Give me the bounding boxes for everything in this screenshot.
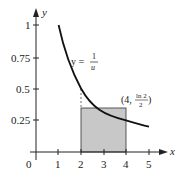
y-tick-label: 0.75 [11,52,31,64]
y-tick-label: 1 [25,19,31,31]
chart: 0 1 2 3 4 5 1 0.75 0.5 0.25 x y y = 1 u … [0,0,178,176]
x-tick-label: 4 [123,158,129,170]
y-tick-label: 0.25 [11,114,31,126]
curve-label: y = 1 u [71,52,98,72]
y-axis-label: y [41,6,47,18]
x-axis-label: x [169,145,175,157]
y-tick-label: 0.5 [16,83,30,95]
x-tick-label: 5 [146,158,152,170]
svg-text:(4,: (4, [121,94,132,106]
x-tick-label: 0 [26,158,32,170]
y-axis-arrow-icon [33,8,39,17]
svg-text:1: 1 [92,52,96,61]
point-label: (4, ln 2 2 ) [121,92,151,109]
x-tick-label: 3 [101,158,107,170]
svg-text:ln 2: ln 2 [136,92,147,100]
x-tick-label: 1 [55,158,61,170]
svg-text:u: u [91,63,95,72]
svg-text:y =: y = [71,56,85,67]
svg-text:): ) [148,94,151,106]
x-tick-label: 2 [78,158,84,170]
svg-text:2: 2 [139,101,143,109]
shaded-rectangle [81,108,126,152]
x-axis-arrow-icon [159,149,168,155]
